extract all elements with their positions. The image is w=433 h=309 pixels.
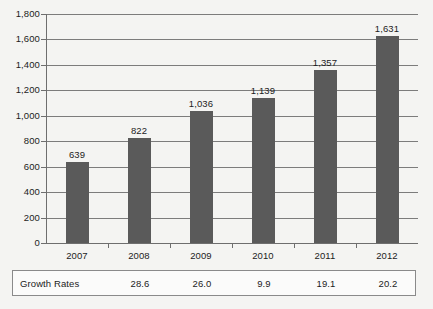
gridline [46, 192, 418, 193]
bar [376, 36, 399, 243]
bar [190, 111, 213, 243]
bar-value-label: 822 [109, 125, 169, 136]
x-axis-tick-label: 2008 [109, 250, 169, 261]
x-axis-tick-label: 2010 [233, 250, 293, 261]
gridline [46, 218, 418, 219]
growth-rate-value: 28.6 [110, 278, 170, 289]
y-axis-tick-label: 800 [0, 135, 40, 146]
y-axis-tick-mark [41, 141, 46, 142]
bar-value-label: 639 [47, 149, 107, 160]
y-axis-tick-mark [41, 218, 46, 219]
y-axis-tick-mark [41, 192, 46, 193]
y-axis-tick-mark [41, 65, 46, 66]
y-axis-tick-mark [41, 90, 46, 91]
y-axis-tick-label: 0 [0, 237, 40, 248]
y-axis-tick-label: 400 [0, 186, 40, 197]
y-axis-tick-label: 1,400 [0, 59, 40, 70]
gridline [46, 14, 418, 15]
y-axis-tick-label: 1,200 [0, 84, 40, 95]
growth-rates-table: Growth Rates 28.626.09.919.120.2 [12, 270, 416, 296]
x-axis-tick-label: 2007 [47, 250, 107, 261]
growth-rate-value: 26.0 [172, 278, 232, 289]
growth-rate-value: 9.9 [234, 278, 294, 289]
x-axis-tick-label: 2009 [171, 250, 231, 261]
growth-rate-value: 19.1 [296, 278, 356, 289]
x-axis-tick-label: 2012 [357, 250, 417, 261]
y-axis-tick-label: 1,800 [0, 8, 40, 19]
bar [252, 98, 275, 243]
plot-area [46, 14, 418, 243]
bar-value-label: 1,036 [171, 98, 231, 109]
y-axis-tick-label: 1,000 [0, 110, 40, 121]
growth-rates-row-label: Growth Rates [20, 278, 79, 289]
y-axis-tick-mark [41, 167, 46, 168]
x-axis-tick-mark [108, 244, 109, 248]
growth-rate-value: 20.2 [358, 278, 418, 289]
gridline [46, 90, 418, 91]
bar [128, 138, 151, 243]
bar [66, 162, 89, 243]
y-axis-tick-label: 1,600 [0, 33, 40, 44]
y-axis-tick-mark [41, 39, 46, 40]
y-axis-tick-label: 200 [0, 212, 40, 223]
y-axis-tick-mark [41, 116, 46, 117]
bar-value-label: 1,631 [357, 23, 417, 34]
bar-value-label: 1,139 [233, 85, 293, 96]
x-axis-tick-mark [170, 244, 171, 248]
gridline [46, 116, 418, 117]
gridline [46, 65, 418, 66]
bar [314, 70, 337, 243]
y-axis-tick-mark [41, 243, 46, 244]
x-axis-tick-mark [294, 244, 295, 248]
bar-value-label: 1,357 [295, 57, 355, 68]
x-axis-tick-mark [356, 244, 357, 248]
gridline [46, 167, 418, 168]
x-axis-tick-mark [232, 244, 233, 248]
gridline [46, 141, 418, 142]
bar-chart-figure: 02004006008001,0001,2001,4001,6001,800 6… [0, 0, 433, 309]
y-axis-tick-mark [41, 14, 46, 15]
x-axis-tick-label: 2011 [295, 250, 355, 261]
y-axis-tick-label: 600 [0, 161, 40, 172]
gridline [46, 39, 418, 40]
y-axis-line [46, 14, 47, 244]
